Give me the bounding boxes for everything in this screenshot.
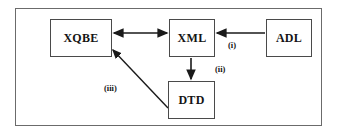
diagram-canvas: XQBE XML ADL DTD (i) (ii) (iii)	[0, 0, 337, 135]
edge-label-i: (i)	[228, 41, 236, 50]
node-adl[interactable]: ADL	[266, 19, 312, 57]
node-dtd-label: DTD	[178, 94, 204, 106]
node-adl-label: ADL	[276, 32, 302, 44]
node-xqbe[interactable]: XQBE	[50, 19, 112, 57]
node-xml[interactable]: XML	[169, 19, 215, 57]
node-xml-label: XML	[178, 32, 207, 44]
edge-label-ii: (ii)	[215, 65, 225, 74]
edge-label-iii: (iii)	[104, 84, 117, 93]
node-xqbe-label: XQBE	[63, 32, 98, 44]
node-dtd[interactable]: DTD	[168, 81, 215, 119]
